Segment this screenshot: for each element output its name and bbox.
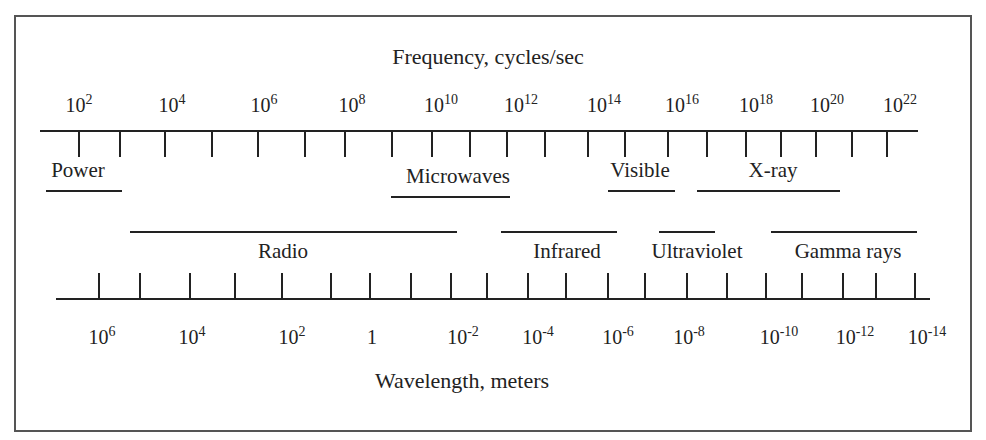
tick-label-exponent: 18: [759, 92, 773, 107]
tick-label-base: 10: [602, 326, 622, 348]
frequency-tick-label: 1016: [665, 94, 699, 117]
frequency-tick: [587, 131, 589, 157]
tick-label-base: 10: [424, 94, 444, 116]
frequency-tick: [667, 131, 669, 157]
wavelength-tick: [644, 273, 646, 299]
tick-label-exponent: 12: [524, 92, 538, 107]
frequency-tick-label: 108: [339, 94, 366, 117]
band-label-upper: Power: [51, 158, 105, 183]
frequency-tick-label: 104: [159, 94, 186, 117]
frequency-tick: [78, 131, 80, 157]
tick-label-base: 10: [159, 94, 179, 116]
tick-label-exponent: 20: [830, 92, 844, 107]
band-label-lower: Ultraviolet: [652, 239, 743, 264]
wavelength-tick: [450, 273, 452, 299]
wavelength-tick-label: 104: [179, 326, 206, 349]
frequency-tick-label: 1018: [739, 94, 773, 117]
frequency-tick: [745, 131, 747, 157]
frequency-tick: [211, 131, 213, 157]
wavelength-tick: [914, 273, 916, 299]
frequency-tick: [469, 131, 471, 157]
wavelength-tick: [281, 273, 283, 299]
tick-label-exponent: 6: [271, 92, 278, 107]
tick-label-base: 10: [179, 326, 199, 348]
wavelength-tick-label: 106: [89, 326, 116, 349]
frequency-tick: [506, 131, 508, 157]
wavelength-tick-label: 10-10: [760, 326, 799, 349]
wavelength-tick-label: 10-12: [836, 326, 875, 349]
tick-label-base: 10: [504, 94, 524, 116]
frequency-tick-label: 1014: [587, 94, 621, 117]
wavelength-tick: [98, 273, 100, 299]
frequency-axis-line: [40, 130, 918, 132]
tick-label-base: 10: [883, 94, 903, 116]
frequency-tick: [344, 131, 346, 157]
frequency-tick: [544, 131, 546, 157]
wavelength-tick: [686, 273, 688, 299]
band-label-upper: X-ray: [749, 158, 798, 183]
wavelength-tick: [369, 273, 371, 299]
tick-label-exponent: 2: [86, 92, 93, 107]
frequency-tick-label: 1020: [810, 94, 844, 117]
tick-label-exponent: -12: [856, 324, 875, 339]
tick-label-exponent: 8: [359, 92, 366, 107]
band-range-line-upper: [391, 196, 510, 198]
wavelength-tick: [234, 273, 236, 299]
tick-label-base: 10: [89, 326, 109, 348]
tick-label-base: 10: [739, 94, 759, 116]
wavelength-tick-label: 10-6: [602, 326, 634, 349]
band-range-line-upper: [608, 190, 675, 192]
band-label-upper: Microwaves: [406, 164, 510, 189]
band-range-line-upper: [46, 190, 122, 192]
wavelength-tick: [486, 273, 488, 299]
wavelength-tick: [189, 273, 191, 299]
tick-label-exponent: -14: [928, 324, 947, 339]
wavelength-tick-label: 102: [279, 326, 306, 349]
wavelength-tick: [410, 273, 412, 299]
wavelength-tick: [801, 273, 803, 299]
tick-label-exponent: 6: [109, 324, 116, 339]
tick-label-base: 10: [66, 94, 86, 116]
wavelength-tick: [726, 273, 728, 299]
tick-label-exponent: 22: [903, 92, 917, 107]
tick-label-exponent: 2: [299, 324, 306, 339]
band-range-line-upper: [697, 190, 840, 192]
wavelength-tick-label: 10-14: [908, 326, 947, 349]
tick-label-exponent: -8: [693, 324, 705, 339]
tick-label-exponent: 4: [199, 324, 206, 339]
wavelength-tick: [527, 273, 529, 299]
band-label-lower: Radio: [258, 239, 308, 264]
tick-label-exponent: -4: [542, 324, 554, 339]
wavelength-tick-label: 10-8: [673, 326, 705, 349]
band-range-line-lower: [130, 231, 457, 233]
tick-label-base: 1: [367, 326, 377, 348]
tick-label-exponent: -6: [622, 324, 634, 339]
tick-label-base: 10: [251, 94, 271, 116]
tick-label-exponent: 10: [444, 92, 458, 107]
frequency-tick: [164, 131, 166, 157]
wavelength-tick: [875, 273, 877, 299]
band-label-lower: Gamma rays: [795, 239, 902, 264]
band-range-line-lower: [771, 231, 917, 233]
tick-label-base: 10: [810, 94, 830, 116]
frequency-tick: [119, 131, 121, 157]
tick-label-exponent: 4: [179, 92, 186, 107]
frequency-tick: [391, 131, 393, 157]
wavelength-tick: [765, 273, 767, 299]
tick-label-base: 10: [908, 326, 928, 348]
frequency-tick-label: 1012: [504, 94, 538, 117]
tick-label-base: 10: [760, 326, 780, 348]
frequency-tick: [851, 131, 853, 157]
band-range-line-lower: [501, 231, 617, 233]
wavelength-tick: [607, 273, 609, 299]
wavelength-tick-label: 10-2: [447, 326, 479, 349]
tick-label-exponent: -10: [780, 324, 799, 339]
wavelength-axis-title: Wavelength, meters: [375, 368, 549, 394]
frequency-tick: [304, 131, 306, 157]
frequency-tick-label: 1010: [424, 94, 458, 117]
tick-label-base: 10: [339, 94, 359, 116]
frequency-tick: [624, 131, 626, 157]
frequency-tick-label: 106: [251, 94, 278, 117]
wavelength-tick-label: 1: [367, 326, 377, 349]
wavelength-tick: [565, 273, 567, 299]
